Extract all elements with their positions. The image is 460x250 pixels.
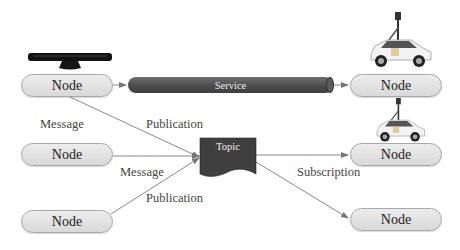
edge-label-publication: Publication <box>146 117 203 132</box>
node-label: Node <box>52 147 82 163</box>
topic-label: Topic <box>200 141 256 152</box>
street-view-car-icon <box>372 98 428 144</box>
node-label: Node <box>381 78 411 94</box>
street-view-car-icon <box>365 10 435 72</box>
publisher-node-2[interactable]: Node <box>21 143 113 166</box>
edge-label-publication: Publication <box>146 191 203 206</box>
edge-label-subscription: Subscription <box>297 165 360 180</box>
node-label: Node <box>52 78 82 94</box>
node-label: Node <box>381 212 411 228</box>
service-pipe[interactable]: Service <box>128 77 333 93</box>
subscriber-node-2[interactable]: Node <box>350 208 442 231</box>
publisher-node-3[interactable]: Node <box>21 210 113 233</box>
node-label: Node <box>381 147 411 163</box>
service-server-node[interactable]: Node <box>350 74 442 97</box>
subscriber-node-1[interactable]: Node <box>350 143 442 166</box>
edge-label-message: Message <box>120 165 164 180</box>
ros-diagram: Node Node Node Service Topic Node N <box>0 0 460 250</box>
service-label: Service <box>215 80 247 91</box>
kinect-sensor-icon <box>27 52 113 72</box>
node-label: Node <box>52 214 82 230</box>
edge-label-message: Message <box>40 117 84 132</box>
service-pipe-end <box>326 77 334 93</box>
publisher-node-1[interactable]: Node <box>21 74 113 97</box>
